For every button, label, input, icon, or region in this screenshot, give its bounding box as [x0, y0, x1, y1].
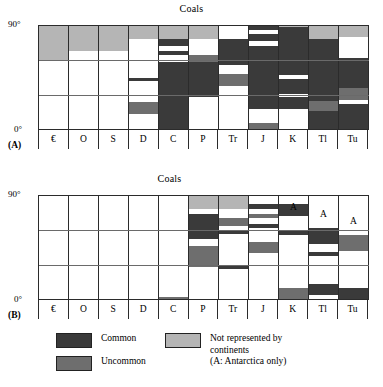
- column-P: [189, 25, 219, 130]
- legend-swatch-not-represented: [165, 333, 201, 348]
- band-uncommon: [279, 288, 308, 300]
- panel-b-label: (B): [8, 310, 21, 320]
- panel-a-y-top-label: 90°: [8, 19, 21, 29]
- column-K: A: [279, 195, 309, 300]
- band-common: [279, 27, 308, 75]
- band-uncommon: [189, 55, 218, 62]
- panel-a-gridline-30: [39, 95, 369, 96]
- column-Tu: [339, 25, 369, 130]
- band-not_represented: [309, 25, 338, 39]
- antarctica-mark-Tu: A: [339, 216, 368, 226]
- panel-a-gridline-60: [39, 60, 369, 61]
- panel-a-title: Coals: [0, 3, 383, 14]
- column-€: [39, 25, 69, 130]
- column-€: [39, 195, 69, 300]
- x-tick-Tu: Tu: [338, 130, 368, 149]
- x-tick-D: D: [129, 130, 159, 149]
- band-not_represented: [159, 25, 188, 39]
- band-not_represented: [219, 195, 248, 209]
- legend-label-not-represented: Not represented bycontinents(A: Antarcti…: [210, 333, 287, 368]
- panel-a: Coals 90° 0° €OSDCPTrJKTlTu (A): [0, 0, 383, 155]
- coals-latitude-figure: Coals 90° 0° €OSDCPTrJKTlTu (A) Coals 90…: [0, 0, 383, 387]
- band-common: [309, 39, 338, 101]
- column-D: [129, 25, 159, 130]
- column-K: [279, 25, 309, 130]
- panel-b-title: Coals: [0, 173, 361, 184]
- antarctica-mark-Tl: A: [309, 209, 338, 219]
- band-common: [249, 34, 278, 41]
- column-C: [159, 195, 189, 300]
- band-uncommon: [129, 102, 158, 114]
- panel-a-columns: [39, 25, 369, 130]
- band-common: [279, 79, 308, 94]
- column-J: [249, 25, 279, 130]
- antarctica-mark-K: A: [279, 202, 308, 212]
- x-tick-Tr: Tr: [218, 300, 248, 319]
- band-not_represented: [339, 25, 368, 37]
- band-common: [249, 46, 278, 109]
- x-tick-S: S: [99, 130, 129, 149]
- panel-a-y-bottom-label: 0°: [14, 124, 22, 134]
- band-common: [309, 252, 338, 256]
- column-C: [159, 25, 189, 130]
- band-uncommon: [249, 214, 278, 219]
- band-not_represented: [279, 25, 308, 27]
- column-D: [129, 195, 159, 300]
- x-tick-P: P: [189, 130, 219, 149]
- legend-label-uncommon: Uncommon: [101, 356, 146, 368]
- x-tick-€: €: [38, 130, 69, 149]
- band-common: [309, 284, 338, 296]
- band-uncommon: [339, 88, 368, 100]
- x-tick-Tu: Tu: [338, 300, 368, 319]
- band-common: [249, 25, 278, 30]
- x-tick-Tr: Tr: [218, 130, 248, 149]
- band-uncommon: [309, 101, 338, 112]
- x-tick-C: C: [159, 130, 189, 149]
- band-not_represented: [189, 25, 218, 39]
- x-tick-O: O: [69, 300, 99, 319]
- x-tick-J: J: [248, 130, 278, 149]
- panel-b: Coals 90° 0° AAA €OSDCPTrJKTlTu (B): [0, 170, 383, 325]
- legend-swatch-common: [56, 333, 92, 348]
- column-Tl: A: [309, 195, 339, 300]
- band-common: [159, 62, 188, 130]
- panel-b-columns: AAA: [39, 195, 369, 300]
- x-tick-K: K: [278, 130, 308, 149]
- band-common: [339, 288, 368, 300]
- band-not_represented: [99, 25, 128, 51]
- x-tick-O: O: [69, 130, 99, 149]
- x-tick-S: S: [99, 300, 129, 319]
- legend-swatch-uncommon: [56, 356, 92, 371]
- panel-b-gridline-30: [39, 265, 369, 266]
- panel-b-y-bottom-label: 0°: [14, 294, 22, 304]
- band-not_represented: [39, 25, 68, 60]
- panel-b-x-axis: €OSDCPTrJKTlTu: [38, 300, 368, 319]
- column-Tr: [219, 195, 249, 300]
- x-tick-J: J: [248, 300, 278, 319]
- legend-label-common: Common: [101, 333, 136, 345]
- x-tick-€: €: [38, 300, 69, 319]
- panel-a-x-axis: €OSDCPTrJKTlTu: [38, 130, 368, 149]
- panel-b-gridline-60: [39, 230, 369, 231]
- column-O: [69, 195, 99, 300]
- band-common: [159, 51, 188, 56]
- panel-b-plot-area: AAA: [38, 195, 369, 300]
- band-uncommon: [219, 218, 248, 226]
- band-uncommon: [339, 235, 368, 251]
- column-S: [99, 25, 129, 130]
- band-not_represented: [189, 195, 218, 209]
- x-tick-P: P: [189, 300, 219, 319]
- band-common: [339, 104, 368, 130]
- band-uncommon: [249, 242, 278, 254]
- band-common: [279, 97, 308, 109]
- band-common: [129, 78, 158, 82]
- column-S: [99, 195, 129, 300]
- column-J: [249, 195, 279, 300]
- x-tick-K: K: [278, 300, 308, 319]
- panel-a-label: (A): [8, 140, 21, 150]
- legend-item-uncommon: Uncommon: [56, 356, 146, 371]
- legend-item-common: Common: [56, 333, 136, 348]
- band-not_represented: [69, 25, 98, 51]
- panel-b-y-top-label: 90°: [8, 189, 21, 199]
- band-common: [249, 224, 278, 228]
